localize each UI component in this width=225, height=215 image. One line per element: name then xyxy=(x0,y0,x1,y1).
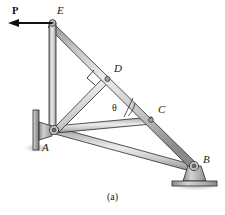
point-label-C: C xyxy=(158,104,165,115)
point-label-A: A xyxy=(42,142,49,153)
point-label-D: D xyxy=(114,63,122,74)
point-label-B: B xyxy=(203,154,210,165)
force-label-P: P xyxy=(12,6,18,17)
force-arrow-P xyxy=(8,19,52,27)
figure-container: P E D C θ A B (a) xyxy=(0,0,225,215)
figure-caption: (a) xyxy=(0,192,225,202)
pin-joint-C xyxy=(149,118,154,123)
member-AE xyxy=(49,22,56,133)
angle-label-theta: θ xyxy=(112,103,117,113)
pin-joint-D xyxy=(105,76,110,81)
point-label-E: E xyxy=(57,5,64,16)
